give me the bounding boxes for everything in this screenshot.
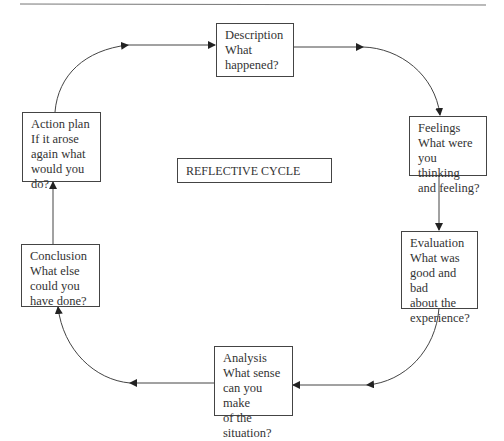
- stage-text: would you: [31, 162, 94, 177]
- stage-text: What: [225, 43, 287, 58]
- top-rule: [20, 4, 486, 5]
- stage-text: What else: [30, 264, 93, 279]
- stage-conclusion: Conclusion What else could you have done…: [21, 244, 100, 307]
- arrow-to-conclusion: [58, 307, 130, 383]
- stage-text: What were: [418, 136, 480, 151]
- stage-text: you thinking: [418, 151, 480, 181]
- stage-text: do?: [31, 177, 94, 192]
- stage-heading: Evaluation: [410, 236, 471, 251]
- stage-text: of the: [223, 411, 286, 426]
- stage-analysis: Analysis What sense can you make of the …: [214, 346, 293, 416]
- stage-text: experience?: [410, 311, 471, 326]
- stage-text: about the: [410, 296, 471, 311]
- stage-text: What sense: [223, 366, 286, 381]
- stage-text: What was: [410, 251, 471, 266]
- stage-text: happened?: [225, 58, 287, 73]
- stage-heading: Conclusion: [30, 249, 93, 264]
- stage-action-plan: Action plan If it arose again what would…: [22, 112, 101, 182]
- stage-feelings: Feelings What were you thinking and feel…: [409, 116, 487, 176]
- stage-description: Description What happened?: [216, 23, 294, 77]
- stage-heading: Feelings: [418, 121, 480, 136]
- stage-evaluation: Evaluation What was good and bad about t…: [401, 231, 478, 309]
- stage-text: good and bad: [410, 266, 471, 296]
- stage-text: and feeling?: [418, 181, 480, 196]
- stage-text: situation?: [223, 426, 286, 441]
- stage-text: could you: [30, 279, 93, 294]
- stage-text: again what: [31, 147, 94, 162]
- stage-text: can you make: [223, 381, 286, 411]
- diagram-title: REFLECTIVE CYCLE: [177, 158, 332, 183]
- stage-text: If it arose: [31, 132, 94, 147]
- stage-heading: Action plan: [31, 117, 94, 132]
- arrow-to-feelings: [363, 47, 440, 115]
- stage-heading: Analysis: [223, 351, 286, 366]
- diagram-title-text: REFLECTIVE CYCLE: [186, 164, 300, 178]
- stage-heading: Description: [225, 28, 287, 43]
- stage-text: have done?: [30, 294, 93, 309]
- arrow-actionplan-curve: [55, 45, 128, 112]
